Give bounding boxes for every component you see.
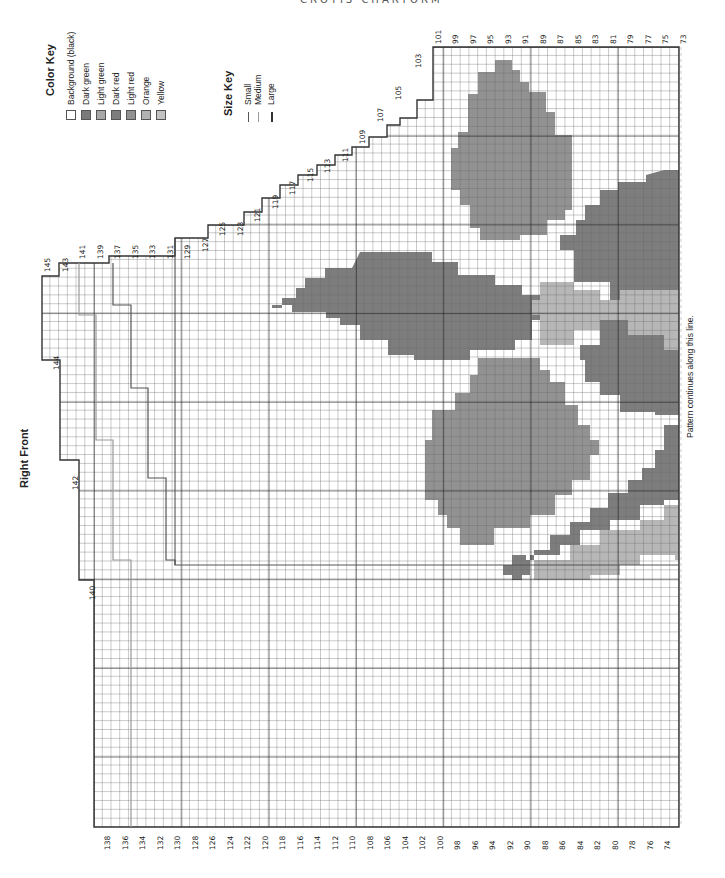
diag-label: 139 — [96, 245, 105, 259]
col-label: 120 — [261, 836, 270, 850]
diag-label: 113 — [323, 159, 332, 173]
col-label: 76 — [646, 840, 655, 850]
diag-label: 143 — [61, 258, 70, 272]
col-label: 94 — [488, 840, 497, 850]
col-label: 96 — [471, 840, 480, 850]
col-label: 138 — [103, 836, 112, 850]
side-label-142: 142 — [71, 476, 80, 490]
col-label: 97 — [469, 34, 478, 44]
col-label: 81 — [609, 34, 618, 44]
col-label: 106 — [383, 836, 392, 850]
col-label: 84 — [576, 840, 585, 850]
diag-label: 133 — [148, 245, 157, 259]
col-label: 80 — [611, 840, 620, 850]
col-label: 83 — [591, 34, 600, 44]
col-label: 110 — [348, 836, 357, 850]
col-label: 112 — [331, 836, 340, 850]
diag-label: 103 — [414, 54, 423, 68]
diag-label: 129 — [183, 245, 192, 259]
diag-label: 123 — [236, 222, 245, 236]
col-label: 85 — [574, 34, 583, 44]
diag-label: 119 — [271, 195, 280, 209]
col-label: 122 — [243, 836, 252, 850]
diag-label: 141 — [78, 245, 87, 259]
col-label: 134 — [138, 836, 147, 850]
pattern-continues-note: Pattern continues along this line. — [685, 315, 695, 438]
diag-label: 115 — [306, 168, 315, 182]
col-label: 79 — [626, 34, 635, 44]
diag-label: 127 — [201, 238, 210, 252]
side-label-144: 144 — [52, 356, 61, 370]
col-label: 128 — [191, 836, 200, 850]
col-label: 114 — [313, 836, 322, 850]
diag-label: 137 — [113, 245, 122, 259]
col-label: 77 — [644, 34, 653, 44]
col-label: 91 — [521, 34, 530, 44]
col-label: 101 — [434, 30, 443, 44]
diag-label: 145 — [43, 258, 52, 272]
col-label: 99 — [451, 34, 460, 44]
col-label: 104 — [401, 836, 410, 850]
diag-label: 117 — [288, 181, 297, 195]
col-label: 92 — [506, 840, 515, 850]
diag-label: 107 — [376, 108, 385, 122]
col-label: 86 — [558, 840, 567, 850]
col-label: 102 — [418, 836, 427, 850]
col-label: 74 — [663, 840, 672, 850]
col-label: 130 — [173, 836, 182, 850]
col-label: 73 — [679, 34, 688, 44]
col-label: 93 — [504, 34, 513, 44]
col-label: 116 — [296, 836, 305, 850]
diag-label: 125 — [218, 222, 227, 236]
diag-label: 121 — [253, 208, 262, 222]
side-label-140: 140 — [88, 586, 97, 600]
diag-label: 109 — [358, 130, 367, 144]
col-label: 136 — [121, 836, 130, 850]
col-label: 87 — [556, 34, 565, 44]
col-label: 124 — [226, 836, 235, 850]
col-label: 75 — [661, 34, 670, 44]
diag-label: 135 — [131, 245, 140, 259]
col-label: 118 — [278, 836, 287, 850]
diag-label: 111 — [341, 148, 350, 162]
col-label: 98 — [453, 840, 462, 850]
col-label: 95 — [486, 34, 495, 44]
col-label: 90 — [523, 840, 532, 850]
col-label: 132 — [156, 836, 165, 850]
col-label: 108 — [366, 836, 375, 850]
col-label: 100 — [436, 836, 445, 850]
col-label: 88 — [541, 840, 550, 850]
col-label: 89 — [539, 34, 548, 44]
diag-label: 131 — [166, 245, 175, 259]
col-label: 126 — [208, 836, 217, 850]
col-label: 82 — [593, 840, 602, 850]
col-label: 78 — [628, 840, 637, 850]
diag-label: 105 — [394, 86, 403, 100]
